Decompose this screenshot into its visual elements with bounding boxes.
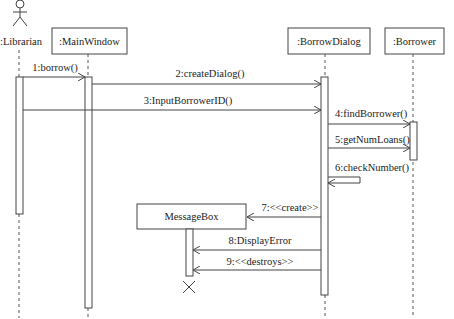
message-label: 9:<<destroys>>	[227, 256, 294, 267]
message-label: 1:borrow()	[32, 62, 78, 74]
sequence-diagram: :Librarian :MainWindow :BorrowDialog :Bo…	[0, 0, 454, 319]
message-label: 2:createDialog()	[176, 68, 245, 80]
participant-borrower: :Borrower	[385, 28, 444, 54]
participant-borrowdialog: :BorrowDialog	[288, 28, 370, 54]
participant-label: :BorrowDialog	[297, 36, 361, 47]
message-9: 9:<<destroys>>	[193, 256, 321, 270]
message-5: 5:getNumLoans()	[328, 134, 410, 148]
activation-messagebox	[186, 229, 193, 276]
message-8: 8:DisplayError	[193, 235, 321, 250]
actor-librarian: :Librarian	[0, 0, 43, 47]
stick-figure-icon	[13, 0, 27, 26]
activation-librarian	[16, 77, 23, 214]
message-1: 1:borrow()	[23, 62, 85, 77]
message-4: 4:findBorrower()	[328, 108, 410, 124]
participant-label: :Librarian	[0, 36, 43, 47]
participant-label: :MainWindow	[59, 36, 120, 47]
message-label: 6:checkNumber()	[335, 162, 410, 174]
message-6-self: 6:checkNumber()	[328, 162, 410, 183]
message-label: 8:DisplayError	[229, 235, 292, 246]
message-2: 2:createDialog()	[92, 68, 321, 84]
activation-mainwindow	[85, 77, 92, 308]
message-label: 5:getNumLoans()	[335, 134, 410, 146]
participant-mainwindow: :MainWindow	[52, 28, 127, 54]
participant-label: :Borrower	[393, 36, 437, 47]
destroy-x-icon	[183, 281, 195, 293]
message-7: 7:<<create>>	[247, 202, 321, 217]
message-label: 4:findBorrower()	[335, 108, 408, 120]
activation-borrowdialog	[321, 77, 328, 295]
message-label: 3:InputBorrowerID()	[144, 95, 233, 107]
participant-label: MessageBox	[164, 211, 219, 222]
activation-borrower	[410, 122, 417, 160]
message-label: 7:<<create>>	[262, 202, 319, 213]
message-3: 3:InputBorrowerID()	[23, 95, 321, 110]
participant-messagebox: MessageBox	[137, 204, 246, 229]
